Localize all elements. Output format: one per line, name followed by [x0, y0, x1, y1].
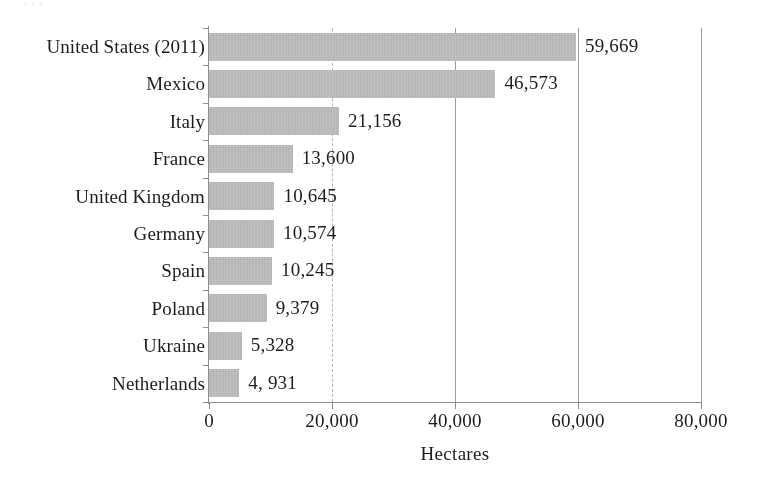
x-axis-tick — [209, 402, 210, 409]
x-axis-tick-label: 40,000 — [428, 410, 481, 432]
category-label: France — [0, 140, 205, 177]
bar-row[interactable]: 9,379 — [209, 290, 701, 327]
bar-row[interactable]: 46,573 — [209, 65, 701, 102]
bar-row[interactable]: 59,669 — [209, 28, 701, 65]
x-axis-tick-label: 60,000 — [551, 410, 604, 432]
bar-value-label: 13,600 — [302, 144, 355, 172]
y-axis-tick — [203, 28, 209, 29]
category-label: Mexico — [0, 65, 205, 102]
bar-row[interactable]: 10,574 — [209, 215, 701, 252]
bar-row[interactable]: 4, 931 — [209, 365, 701, 402]
category-label: Germany — [0, 215, 205, 252]
bar[interactable] — [209, 220, 274, 248]
bar[interactable] — [209, 369, 239, 397]
y-axis-tick — [203, 215, 209, 216]
bar-row[interactable]: 10,645 — [209, 178, 701, 215]
y-axis-tick — [203, 178, 209, 179]
category-label: Spain — [0, 252, 205, 289]
bar[interactable] — [209, 332, 242, 360]
y-axis-tick — [203, 327, 209, 328]
bar-value-label: 10,574 — [283, 219, 336, 247]
bar-row[interactable]: 5,328 — [209, 327, 701, 364]
y-axis-tick — [203, 290, 209, 291]
bar-value-label: 59,669 — [585, 32, 638, 60]
bar-value-label: 5,328 — [251, 331, 295, 359]
y-axis-tick — [203, 252, 209, 253]
x-axis-tick — [332, 402, 333, 409]
bar-chart-figure: , , , United States (2011)MexicoItalyFra… — [0, 0, 759, 490]
x-axis-tick-label: 0 — [204, 410, 214, 432]
bar-value-label: 46,573 — [504, 69, 557, 97]
category-label: United Kingdom — [0, 178, 205, 215]
y-axis-tick — [203, 103, 209, 104]
bar[interactable] — [209, 294, 267, 322]
y-axis-tick — [203, 65, 209, 66]
bar-value-label: 10,645 — [283, 182, 336, 210]
bar[interactable] — [209, 107, 339, 135]
bar[interactable] — [209, 145, 293, 173]
gridline-80000 — [701, 28, 702, 402]
x-axis-tick — [455, 402, 456, 409]
category-label: Ukraine — [0, 327, 205, 364]
category-label: United States (2011) — [0, 28, 205, 65]
bar[interactable] — [209, 70, 495, 98]
bar[interactable] — [209, 182, 274, 210]
category-label: Italy — [0, 103, 205, 140]
x-axis-tick-label: 20,000 — [305, 410, 358, 432]
bar-row[interactable]: 13,600 — [209, 140, 701, 177]
x-axis-title: Hectares — [421, 443, 490, 465]
bar[interactable] — [209, 257, 272, 285]
x-axis-tick — [701, 402, 702, 409]
bar-row[interactable]: 21,156 — [209, 103, 701, 140]
category-label: Poland — [0, 290, 205, 327]
bar[interactable] — [209, 33, 576, 61]
category-axis-labels: United States (2011)MexicoItalyFranceUni… — [0, 28, 205, 402]
bar-value-label: 21,156 — [348, 107, 401, 135]
bar-value-label: 10,245 — [281, 256, 334, 284]
x-axis-tick — [578, 402, 579, 409]
clipped-text-remnant: , , , — [24, 0, 43, 7]
bar-value-label: 9,379 — [276, 294, 320, 322]
bar-value-label: 4, 931 — [248, 369, 297, 397]
y-axis-tick — [203, 140, 209, 141]
x-axis-tick-label: 80,000 — [674, 410, 727, 432]
plot-area: 59,66946,57321,15613,60010,64510,57410,2… — [209, 28, 701, 402]
category-label: Netherlands — [0, 365, 205, 402]
bar-row[interactable]: 10,245 — [209, 252, 701, 289]
y-axis-tick — [203, 365, 209, 366]
